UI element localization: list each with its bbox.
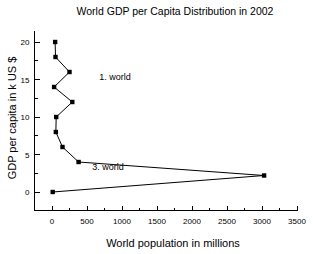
chart-title-group: World GDP per Capita Distribution in 200… <box>77 5 274 17</box>
x-tick-label: 1000 <box>113 217 131 226</box>
x-tick-label: 1500 <box>148 217 166 226</box>
data-series-group <box>53 42 264 192</box>
data-point-marker <box>67 70 71 74</box>
chart-container: World GDP per Capita Distribution in 200… <box>0 0 313 254</box>
data-point-marker <box>53 55 57 59</box>
y-axis-ticks <box>35 42 40 211</box>
y-tick-label: 0 <box>25 188 30 197</box>
x-tick-label: 3500 <box>288 217 306 226</box>
data-point-marker <box>54 130 58 134</box>
data-markers-group <box>51 40 267 194</box>
x-tick-label: 2500 <box>218 217 236 226</box>
x-tick-label: 0 <box>50 217 55 226</box>
data-point-marker <box>51 190 55 194</box>
data-point-marker <box>76 160 80 164</box>
data-point-marker <box>53 40 57 44</box>
data-point-marker <box>52 85 56 89</box>
data-point-marker <box>70 100 74 104</box>
x-axis-title: World population in millions <box>106 237 240 249</box>
y-tick-label: 10 <box>21 113 30 122</box>
chart-annotations: 1. world3. world <box>92 72 131 173</box>
x-tick-label: 500 <box>80 217 94 226</box>
y-tick-label: 5 <box>25 151 30 160</box>
y-tick-label: 20 <box>21 38 30 47</box>
y-axis-title: GDP per capita in k US $ <box>6 57 18 180</box>
data-point-marker <box>262 173 266 177</box>
x-axis-tick-labels: 0500100015002000250030003500 <box>50 217 307 226</box>
y-axis-tick-labels: 05101520 <box>21 38 30 197</box>
data-point-marker <box>60 145 64 149</box>
axes-group <box>35 31 298 211</box>
chart-annotation-label: 3. world <box>92 162 124 172</box>
chart-title: World GDP per Capita Distribution in 200… <box>77 5 274 17</box>
x-axis-ticks <box>52 206 297 211</box>
x-tick-label: 2000 <box>183 217 201 226</box>
gdp-distribution-chart: World GDP per Capita Distribution in 200… <box>0 0 313 254</box>
series-line <box>53 42 264 192</box>
chart-annotation-label: 1. world <box>99 72 131 82</box>
data-point-marker <box>54 115 58 119</box>
x-tick-label: 3000 <box>253 217 271 226</box>
y-tick-label: 15 <box>21 76 30 85</box>
